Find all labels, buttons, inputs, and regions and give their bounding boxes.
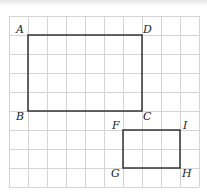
label-c: C xyxy=(143,110,152,123)
grid-diagram: A D B C F I G H xyxy=(0,0,207,194)
label-g: G xyxy=(111,167,120,180)
label-i: I xyxy=(182,119,188,132)
label-h: H xyxy=(181,167,192,180)
grid-lines xyxy=(9,16,200,188)
label-a: A xyxy=(15,23,24,36)
label-d: D xyxy=(142,23,152,36)
label-b: B xyxy=(15,110,24,123)
label-f: F xyxy=(111,119,120,132)
